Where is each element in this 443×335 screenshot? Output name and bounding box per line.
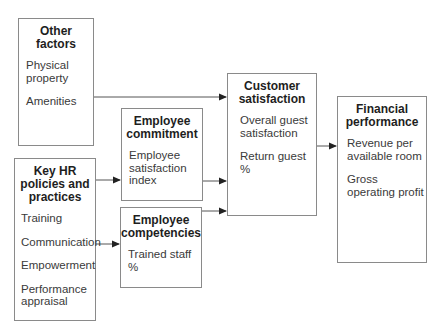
item-employee-satisfaction-index: Employee satisfaction index <box>129 149 202 187</box>
box-other-factors: Other factors Physical property Amenitie… <box>18 18 94 146</box>
box-title: Customer satisfaction <box>228 80 316 106</box>
item-empowerment: Empowerment <box>21 259 95 272</box>
box-title: Employee competencies <box>121 214 201 240</box>
box-items: Revenue per available room Gross operati… <box>338 137 426 198</box>
box-key-hr-policies: Key HR policies and practices Training C… <box>14 158 96 321</box>
item-training: Training <box>21 212 95 225</box>
item-physical-property: Physical property <box>26 59 93 84</box>
item-performance-appraisal: Performance appraisal <box>21 283 95 308</box>
box-employee-commitment: Employee commitment Employee satisfactio… <box>121 108 203 201</box>
item-gross-operating-profit: Gross operating profit <box>347 173 426 198</box>
box-items: Physical property Amenities <box>19 59 93 108</box>
box-employee-competencies: Employee competencies Trained staff % <box>120 207 202 288</box>
box-items: Training Communication Empowerment Perfo… <box>15 212 95 308</box>
box-items: Trained staff % <box>121 248 201 273</box>
box-items: Overall guest satisfaction Return guest … <box>228 114 316 175</box>
box-title: Key HR policies and practices <box>15 165 95 204</box>
item-communication: Communication <box>21 236 95 249</box>
item-overall-guest-satisfaction: Overall guest satisfaction <box>240 114 316 139</box>
box-title: Financial performance <box>338 103 426 129</box>
box-title: Employee commitment <box>122 115 202 141</box>
box-financial-performance: Financial performance Revenue per availa… <box>337 96 427 263</box>
item-revenue-per-available-room: Revenue per available room <box>347 137 426 162</box>
box-items: Employee satisfaction index <box>122 149 202 187</box>
box-customer-satisfaction: Customer satisfaction Overall guest sati… <box>227 73 317 216</box>
item-trained-staff: Trained staff % <box>128 248 201 273</box>
item-amenities: Amenities <box>26 95 93 108</box>
box-title: Other factors <box>19 25 93 51</box>
item-return-guest: Return guest % <box>240 150 316 175</box>
